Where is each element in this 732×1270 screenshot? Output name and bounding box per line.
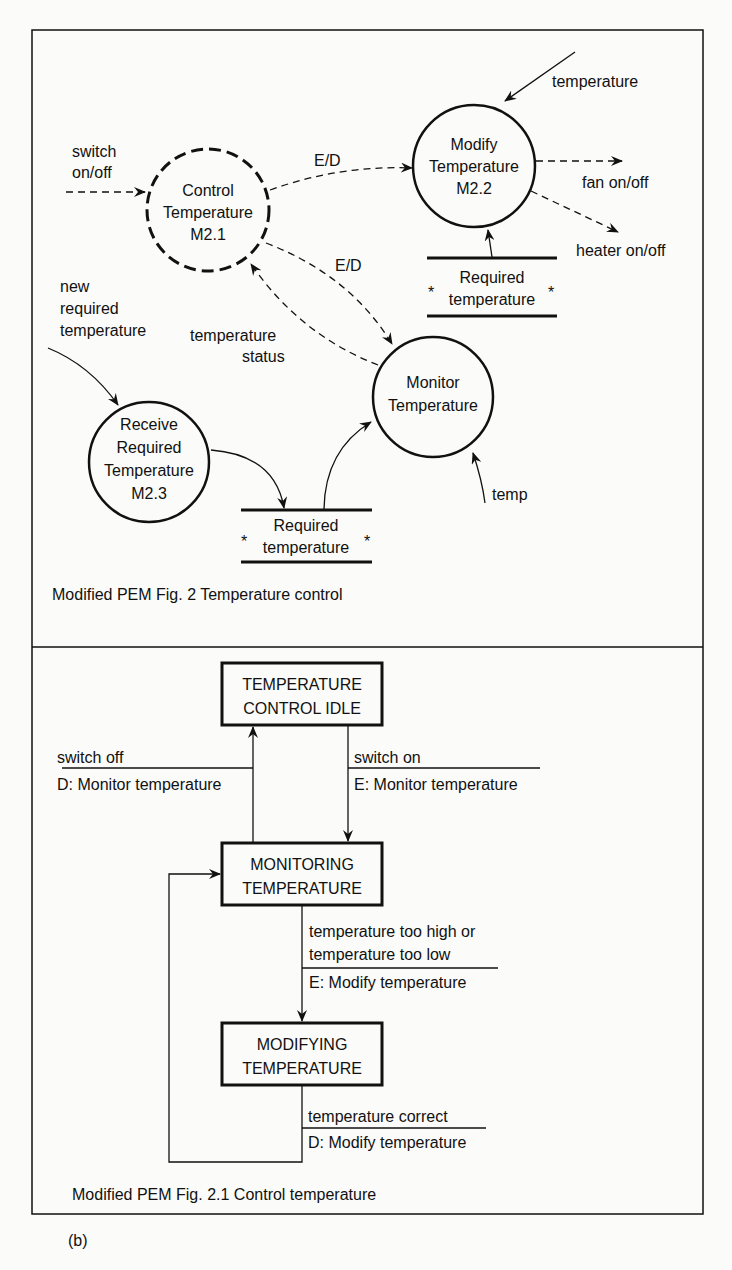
flow-temperature-in[interactable]: temperature [505, 52, 638, 101]
flow-label: heater on/off [576, 242, 666, 259]
flow-label: temperature [552, 73, 638, 90]
state-label: TEMPERATURE [242, 1060, 362, 1077]
transition-condition: switch off [57, 749, 124, 766]
transition-condition: temperature too low [309, 946, 451, 963]
flow-ed-control-to-modify[interactable]: E/D [270, 152, 412, 190]
diagram-canvas: Control Temperature M2.1 Modify Temperat… [0, 0, 732, 1270]
process-label: Monitor [406, 374, 460, 391]
flow-label: fan on/off [582, 174, 649, 191]
flow-fan-on-off[interactable]: fan on/off [536, 161, 649, 191]
transition-condition: switch on [354, 749, 421, 766]
process-label: Temperature [388, 397, 478, 414]
transition-condition: temperature correct [308, 1108, 448, 1125]
flow-label: temperature [190, 327, 276, 344]
transition-temperature-too-high-or-low[interactable]: temperature too high or temperature too … [302, 906, 498, 1021]
std-caption: Modified PEM Fig. 2.1 Control temperatur… [72, 1186, 376, 1203]
dfd-panel: Control Temperature M2.1 Modify Temperat… [48, 52, 666, 603]
flow-new-required-temperature[interactable]: new required temperature [48, 278, 146, 405]
process-label: Temperature [104, 462, 194, 479]
process-modify-temperature[interactable]: Modify Temperature M2.2 [413, 105, 535, 227]
flow-label: temp [492, 486, 528, 503]
flow-label: new [60, 278, 90, 295]
process-label: M2.3 [131, 485, 167, 502]
flow-required-temp-to-modify[interactable] [488, 230, 492, 257]
flow-heater-on-off[interactable]: heater on/off [531, 191, 666, 259]
flow-store-to-monitor[interactable] [324, 422, 371, 509]
state-modifying-temperature[interactable]: MODIFYING TEMPERATURE [222, 1023, 382, 1085]
transition-temperature-correct[interactable]: temperature correct D: Modify temperatur… [169, 874, 486, 1162]
dfd-caption: Modified PEM Fig. 2 Temperature control [52, 586, 343, 603]
store-required-temperature-bottom[interactable]: Required temperature * * [241, 510, 372, 562]
store-duplicate-marker: * [548, 284, 554, 301]
store-label: temperature [263, 539, 349, 556]
transition-switch-off[interactable]: switch off D: Monitor temperature [57, 727, 253, 842]
store-label: Required [460, 269, 525, 286]
state-temperature-control-idle[interactable]: TEMPERATURE CONTROL IDLE [222, 663, 382, 725]
transition-action: E: Monitor temperature [354, 776, 518, 793]
flow-label: switch [72, 143, 116, 160]
store-label: Required [274, 517, 339, 534]
std-panel: TEMPERATURE CONTROL IDLE MONITORING TEMP… [57, 663, 540, 1203]
transition-condition: temperature too high or [309, 923, 476, 940]
transition-action: D: Modify temperature [308, 1134, 466, 1151]
flow-label: required [60, 300, 119, 317]
transition-action: D: Monitor temperature [57, 776, 222, 793]
state-monitoring-temperature[interactable]: MONITORING TEMPERATURE [222, 843, 382, 905]
process-label: Temperature [163, 204, 253, 221]
flow-label: temperature [60, 322, 146, 339]
state-label: TEMPERATURE [242, 676, 362, 693]
figure-label: (b) [68, 1232, 88, 1249]
figure-frame [32, 30, 703, 1214]
flow-ed-control-to-monitor[interactable]: E/D [266, 243, 392, 344]
flow-temperature-status[interactable]: temperature status [190, 264, 378, 365]
flow-switch-on-off[interactable]: switch on/off [66, 143, 145, 192]
process-control-temperature[interactable]: Control Temperature M2.1 [147, 149, 269, 271]
flow-label: E/D [314, 152, 341, 169]
process-label: Modify [450, 136, 497, 153]
state-label: MONITORING [250, 856, 354, 873]
process-label: Receive [120, 416, 178, 433]
state-label: MODIFYING [257, 1036, 348, 1053]
flow-label: E/D [335, 257, 362, 274]
store-duplicate-marker: * [364, 533, 370, 550]
process-label: Control [182, 182, 234, 199]
flow-receive-to-store[interactable] [211, 450, 284, 508]
store-required-temperature-top[interactable]: Required temperature * * [427, 258, 557, 316]
process-label: Temperature [429, 158, 519, 175]
flow-label: on/off [72, 164, 112, 181]
store-duplicate-marker: * [428, 284, 434, 301]
process-label: M2.1 [190, 226, 226, 243]
state-label: CONTROL IDLE [243, 700, 361, 717]
transition-action: E: Modify temperature [309, 974, 467, 991]
process-monitor-temperature[interactable]: Monitor Temperature [373, 337, 493, 457]
transition-switch-on[interactable]: switch on E: Monitor temperature [348, 726, 540, 841]
process-label: M2.2 [456, 180, 492, 197]
flow-temp-in[interactable]: temp [473, 453, 528, 503]
flow-label: status [242, 348, 285, 365]
process-receive-required-temperature[interactable]: Receive Required Temperature M2.3 [89, 402, 209, 522]
state-label: TEMPERATURE [242, 880, 362, 897]
process-label: Required [117, 439, 182, 456]
store-label: temperature [449, 291, 535, 308]
store-duplicate-marker: * [241, 533, 247, 550]
